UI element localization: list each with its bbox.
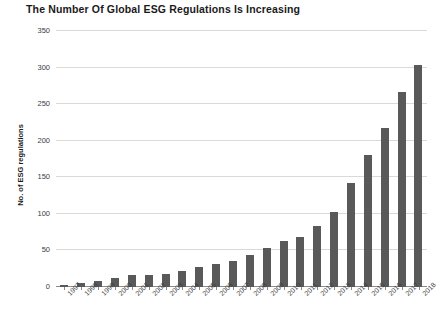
x-tick [132,287,133,290]
bar-slot [56,31,73,287]
bar-slot [376,31,393,287]
x-tick [98,287,99,290]
x-tick [149,287,150,290]
x-tick [351,287,352,290]
x-tick [301,287,302,290]
bar [347,183,355,287]
x-tick [368,287,369,290]
x-tick [385,287,386,290]
x-tick [334,287,335,290]
y-tick-label: 0 [46,282,50,291]
x-tick [216,287,217,290]
bar-slot [241,31,258,287]
x-tick [166,287,167,290]
x-tick [250,287,251,290]
y-tick-label: 350 [37,26,50,35]
bar-slot [326,31,343,287]
x-tick [419,287,420,290]
x-tick [317,287,318,290]
bar-slot [410,31,427,287]
bar [364,155,372,287]
x-tick [182,287,183,290]
bar-slot [258,31,275,287]
y-tick-label: 250 [37,99,50,108]
bar-slot [225,31,242,287]
bar [398,92,406,287]
y-axis-title: No. of ESG regulations [16,110,25,220]
bar-slot [359,31,376,287]
bar-slot [208,31,225,287]
bar [414,65,422,287]
bar [381,128,389,287]
y-tick-label: 200 [37,135,50,144]
bar-slot [292,31,309,287]
bar-slot [107,31,124,287]
x-tick [233,287,234,290]
bars-layer [56,31,427,287]
x-tick [64,287,65,290]
bar-slot [275,31,292,287]
x-tick [402,287,403,290]
bar-slot [157,31,174,287]
plot-area: 050100150200250300350 [56,31,427,287]
bar [330,212,338,287]
x-tick [81,287,82,290]
bar-slot [191,31,208,287]
bar [280,241,288,287]
y-tick-label: 100 [37,208,50,217]
bar-slot [343,31,360,287]
bar [313,226,321,287]
chart-title: The Number Of Global ESG Regulations Is … [26,3,300,15]
bar [296,237,304,287]
x-tick [267,287,268,290]
bar-slot [123,31,140,287]
x-tick [199,287,200,290]
x-axis: 1997199819992000200120022003200420052006… [56,287,427,322]
x-tick [284,287,285,290]
bar-slot [174,31,191,287]
y-tick-label: 150 [37,172,50,181]
y-tick-label: 50 [42,245,50,254]
bar-slot [90,31,107,287]
bar-slot [393,31,410,287]
bar-slot [140,31,157,287]
bar-slot [73,31,90,287]
x-tick [115,287,116,290]
bar-slot [309,31,326,287]
y-tick-label: 300 [37,62,50,71]
